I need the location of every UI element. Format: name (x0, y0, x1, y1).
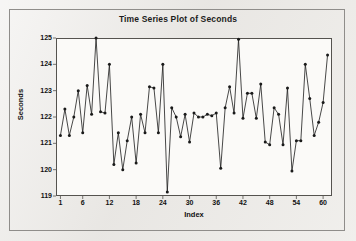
data-point (135, 162, 138, 165)
data-point (210, 114, 213, 117)
data-point (117, 131, 120, 134)
data-point (228, 85, 231, 88)
data-point (286, 87, 289, 90)
data-point (322, 101, 325, 104)
data-point (152, 87, 155, 90)
data-point (264, 141, 267, 144)
data-point (277, 113, 280, 116)
x-axis-tick-label: 30 (180, 199, 200, 206)
data-point (179, 135, 182, 138)
data-point (72, 116, 75, 119)
data-point (193, 112, 196, 115)
series-line-seconds (60, 38, 327, 192)
data-point (175, 116, 178, 119)
x-axis-tick-label: 54 (286, 199, 306, 206)
x-axis-tick-label: 48 (260, 199, 280, 206)
data-point (259, 83, 262, 86)
x-axis-tick-label: 6 (73, 199, 93, 206)
data-point (273, 106, 276, 109)
data-point (308, 97, 311, 100)
data-point (326, 54, 329, 57)
data-point (103, 112, 106, 115)
x-axis-tick-label: 42 (233, 199, 253, 206)
data-point (139, 113, 142, 116)
data-point (95, 37, 98, 40)
figure-container: Time Series Plot of Seconds 119120121122… (0, 0, 356, 241)
data-point (317, 121, 320, 124)
data-point (206, 113, 209, 116)
x-axis-tick-label: 12 (99, 199, 119, 206)
data-point (59, 134, 62, 137)
x-axis-tick-label: 36 (206, 199, 226, 206)
data-point (215, 112, 218, 115)
data-point (237, 38, 240, 41)
data-point (170, 106, 173, 109)
data-point (241, 117, 244, 120)
data-point (250, 92, 253, 95)
data-point (90, 113, 93, 116)
data-point (108, 63, 111, 66)
data-point (290, 169, 293, 172)
data-point (246, 92, 249, 95)
data-point (126, 139, 129, 142)
x-axis-tick-label: 1 (50, 199, 70, 206)
data-point (184, 113, 187, 116)
x-axis-tick-label: 18 (126, 199, 146, 206)
data-point (188, 141, 191, 144)
data-point (282, 143, 285, 146)
data-point (197, 116, 200, 119)
data-point (304, 63, 307, 66)
data-point (295, 139, 298, 142)
data-point (219, 167, 222, 170)
data-point (63, 108, 66, 111)
data-point (68, 134, 71, 137)
data-point (148, 85, 151, 88)
data-point (233, 112, 236, 115)
data-point (112, 163, 115, 166)
data-point (161, 63, 164, 66)
data-point (99, 110, 102, 113)
data-point (313, 134, 316, 137)
data-point (224, 106, 227, 109)
data-point (201, 116, 204, 119)
data-point (255, 117, 258, 120)
data-point (299, 139, 302, 142)
x-axis-tick-label: 24 (153, 199, 173, 206)
data-point (157, 131, 160, 134)
data-point (130, 116, 133, 119)
axis-ticks (53, 38, 323, 199)
data-point (77, 89, 80, 92)
x-axis-tick-label: 60 (313, 199, 333, 206)
data-point (268, 143, 271, 146)
data-point (86, 84, 89, 87)
data-point (144, 131, 147, 134)
data-point (81, 131, 84, 134)
data-point (166, 191, 169, 194)
data-point (121, 168, 124, 171)
